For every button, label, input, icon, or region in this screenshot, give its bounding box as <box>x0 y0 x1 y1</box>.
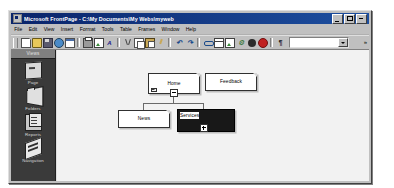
scissors-icon[interactable] <box>122 37 133 48</box>
publish-web-icon[interactable] <box>53 37 64 48</box>
sidebar-item-reports[interactable]: Reports <box>11 111 55 137</box>
component-icon[interactable] <box>202 37 213 48</box>
navigation-workspace[interactable]: Home Feedback News Services <box>56 50 369 181</box>
nav-node-label: Services <box>180 112 199 119</box>
reports-view-icon <box>25 114 42 131</box>
toolbar-grip[interactable] <box>13 38 18 48</box>
menu-item-tools[interactable]: Tools <box>99 25 117 34</box>
new-document-icon[interactable] <box>20 37 31 48</box>
menu-item-table[interactable]: Table <box>117 25 135 34</box>
open-folder-icon[interactable] <box>31 37 42 48</box>
standard-toolbar: A ↶ ↷ ⚙ ¶ » <box>11 35 369 49</box>
navigation-view-icon <box>25 137 42 160</box>
sidebar-item-folders[interactable]: Folders <box>11 85 55 111</box>
redo-arrow-icon[interactable]: ↷ <box>184 37 195 48</box>
nav-node-feedback[interactable]: Feedback <box>205 73 257 91</box>
menu-bar: File Edit View Insert Format Tools Table… <box>11 25 369 35</box>
clipboard-paste-icon[interactable] <box>144 37 155 48</box>
picture-icon[interactable] <box>224 37 235 48</box>
toolbar-overflow-button[interactable]: » <box>364 38 367 47</box>
views-bar: Views Page Folders Reports Navigation <box>11 50 56 181</box>
spelling-check-icon[interactable]: A <box>104 37 115 48</box>
printer-icon[interactable] <box>82 37 93 48</box>
save-disk-icon[interactable] <box>42 37 53 48</box>
show-all-icon[interactable]: ¶ <box>275 37 286 48</box>
connector-horizontal <box>143 103 204 104</box>
nav-node-news[interactable]: News <box>118 110 170 128</box>
style-combo-box[interactable] <box>289 37 349 48</box>
title-bar[interactable]: Microsoft FrontPage - C:\My Documents\My… <box>11 13 369 24</box>
refresh-icon[interactable] <box>246 37 257 48</box>
minimize-button[interactable] <box>332 14 343 24</box>
application-window: Microsoft FrontPage - C:\My Documents\My… <box>8 10 372 184</box>
page-fold-corner <box>196 73 200 77</box>
home-icon <box>151 88 156 92</box>
window-title: Microsoft FrontPage - C:\My Documents\My… <box>24 16 332 22</box>
menu-item-help[interactable]: Help <box>183 25 200 34</box>
client-area: Views Page Folders Reports Navigation <box>11 49 369 181</box>
nav-node-label: News <box>119 116 169 122</box>
views-bar-header: Views <box>11 50 55 59</box>
navigation-canvas[interactable]: Home Feedback News Services <box>57 50 369 181</box>
toolbar-separator <box>168 38 171 47</box>
toolbar-separator <box>77 38 80 47</box>
menu-item-view[interactable]: View <box>40 25 57 34</box>
folders-view-icon <box>26 86 43 107</box>
hyperlink-icon[interactable]: ⚙ <box>235 37 246 48</box>
frontpage-icon[interactable] <box>13 14 22 23</box>
menu-item-file[interactable]: File <box>11 25 25 34</box>
toolbar-separator <box>197 38 200 47</box>
folder-list-icon[interactable] <box>64 37 75 48</box>
sidebar-item-page[interactable]: Page <box>11 59 55 85</box>
maximize-button[interactable] <box>344 14 355 24</box>
nav-node-label: Feedback <box>206 79 256 85</box>
page-fold-corner <box>253 73 257 77</box>
toolbar-separator <box>117 38 120 47</box>
undo-arrow-icon[interactable]: ↶ <box>173 37 184 48</box>
menu-item-format[interactable]: Format <box>76 25 98 34</box>
menu-item-edit[interactable]: Edit <box>25 25 40 34</box>
copy-icon[interactable] <box>133 37 144 48</box>
toolbar-separator <box>270 38 273 47</box>
nav-toggle-home[interactable] <box>170 89 178 97</box>
page-fold-corner <box>166 110 170 114</box>
menu-item-insert[interactable]: Insert <box>58 25 77 34</box>
menu-item-window[interactable]: Window <box>158 25 182 34</box>
window-controls <box>332 14 368 24</box>
preview-in-browser-icon[interactable] <box>93 37 104 48</box>
paintbrush-icon[interactable] <box>155 37 166 48</box>
page-view-icon <box>25 61 42 79</box>
stop-icon[interactable] <box>257 37 268 48</box>
close-button[interactable] <box>356 14 367 24</box>
table-icon[interactable] <box>213 37 224 48</box>
nav-node-label: Home <box>149 81 199 87</box>
menu-item-frames[interactable]: Frames <box>135 25 158 34</box>
connector-news-stem <box>143 103 144 110</box>
nav-toggle-services[interactable] <box>200 124 208 132</box>
sidebar-item-navigation[interactable]: Navigation <box>11 137 55 163</box>
chevron-down-icon[interactable] <box>338 38 348 47</box>
